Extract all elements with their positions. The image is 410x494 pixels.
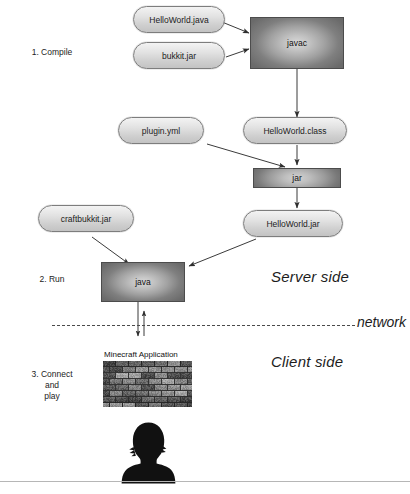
node-label: craftbukkit.jar bbox=[61, 214, 112, 224]
minecraft-app-screenshot[interactable] bbox=[103, 361, 192, 407]
node-label: javac bbox=[287, 38, 307, 48]
node-label: java bbox=[135, 277, 151, 287]
edge-plugin-yml-to-jar bbox=[207, 144, 285, 167]
zone-label-server-side: Server side bbox=[271, 268, 349, 285]
node-label: bukkit.jar bbox=[162, 51, 196, 61]
minecraft-texture bbox=[103, 361, 192, 407]
node-javac[interactable]: javac bbox=[250, 17, 344, 69]
diagram-canvas: 1. Compile 2. Run 3. Connect and play He… bbox=[0, 0, 410, 494]
step-label-connect: 3. Connect and play bbox=[14, 369, 90, 402]
edge-bukkit-jar-to-javac bbox=[226, 49, 249, 57]
network-label: network bbox=[357, 314, 406, 330]
zone-label-client-side: Client side bbox=[271, 353, 343, 370]
node-label: jar bbox=[292, 173, 301, 183]
node-helloworld-class[interactable]: HelloWorld.class bbox=[243, 117, 347, 144]
node-bukkit-jar[interactable]: bukkit.jar bbox=[133, 42, 225, 69]
node-label: HelloWorld.java bbox=[149, 15, 208, 25]
edge-craftbukkit-jar-to-java bbox=[92, 237, 129, 264]
network-divider bbox=[52, 325, 355, 326]
edge-helloworld-java-to-javac bbox=[222, 22, 249, 33]
minecraft-app-caption: Minecraft Application bbox=[104, 350, 178, 359]
node-jar[interactable]: jar bbox=[253, 168, 341, 188]
node-craftbukkit-jar[interactable]: craftbukkit.jar bbox=[38, 205, 134, 232]
node-label: HelloWorld.class bbox=[263, 126, 326, 136]
step-label-run: 2. Run bbox=[14, 274, 90, 285]
node-java[interactable]: java bbox=[101, 262, 185, 302]
node-label: HelloWorld.jar bbox=[266, 219, 319, 229]
diagram-edges bbox=[0, 0, 410, 494]
node-helloworld-java[interactable]: HelloWorld.java bbox=[133, 6, 225, 33]
node-label: plugin.yml bbox=[142, 126, 180, 136]
node-plugin-yml[interactable]: plugin.yml bbox=[118, 117, 204, 144]
node-helloworld-jar[interactable]: HelloWorld.jar bbox=[243, 210, 343, 237]
step-label-compile: 1. Compile bbox=[14, 47, 90, 58]
edge-helloworld-jar-to-java bbox=[189, 239, 256, 266]
page-bottom-rule bbox=[0, 481, 410, 482]
player-silhouette-icon bbox=[112, 420, 184, 484]
